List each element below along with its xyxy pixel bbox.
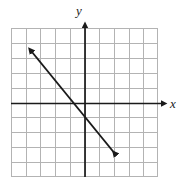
graph-figure: y x [0, 0, 181, 191]
y-axis-label: y [76, 4, 82, 17]
x-axis-label: x [170, 97, 176, 110]
coordinate-plane-svg [0, 0, 181, 191]
